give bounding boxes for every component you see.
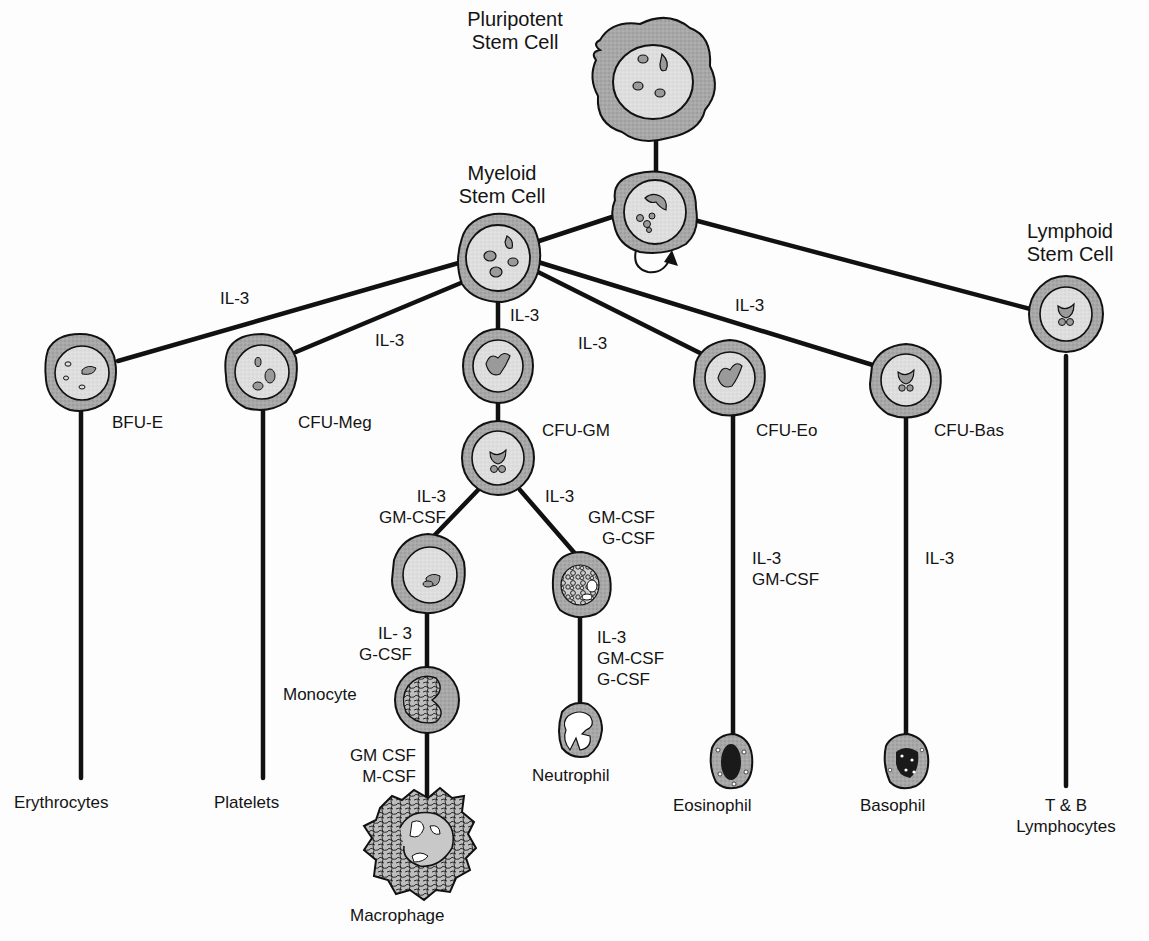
- neutrophil-cell: [559, 703, 602, 757]
- growth-factor-label: IL-3 GM-CSF: [752, 548, 819, 590]
- mature-cell-label-macrophage: Macrophage: [350, 905, 445, 926]
- myelocyte-cell: [553, 552, 611, 617]
- lymphoid-stem-cell-label: Lymphoid Stem Cell: [1000, 220, 1140, 266]
- growth-factor-label: IL-3 GM-CSF: [340, 486, 446, 528]
- cfu-gm-cell: [462, 421, 534, 495]
- mature-cell-label-monocyte: Monocyte: [283, 684, 357, 705]
- mature-cell-label-eosinophil: Eosinophil: [673, 795, 751, 816]
- hematopoiesis-diagram: [0, 0, 1149, 941]
- growth-factor-label: IL-3: [925, 548, 954, 569]
- lymphoid-stem-cell: [1029, 276, 1103, 352]
- myeloid-stem-cell: [458, 214, 540, 302]
- growth-factor-label: GM CSF M-CSF: [310, 745, 416, 787]
- mature-cell-label-basophil: Basophil: [860, 795, 925, 816]
- mature-cell-label-neutrophil: Neutrophil: [532, 765, 610, 786]
- pluripotent-stem-cell-label: Pluripotent Stem Cell: [440, 8, 590, 54]
- growth-factor-label: IL-3: [578, 333, 607, 354]
- growth-factor-label: IL-3 GM-CSF G-CSF: [597, 627, 664, 690]
- multipotent-cell: [612, 171, 697, 253]
- cfu-eo-cell: [694, 340, 765, 416]
- monoblast-cell: [392, 534, 465, 613]
- lineage-lines: [81, 135, 1066, 795]
- cfu-bas-cell: [870, 344, 941, 418]
- progenitor-label-cfu-meg: CFU-Meg: [298, 412, 372, 433]
- cfu-meg-cell: [225, 334, 297, 410]
- eosinophil-cell: [711, 734, 753, 788]
- basophil-cell: [885, 734, 929, 788]
- macrophage-cell: [364, 788, 476, 900]
- growth-factor-label: IL-3: [735, 295, 764, 316]
- monocyte-cell: [395, 667, 459, 733]
- progenitor-label-cfu-gm: CFU-GM: [542, 420, 610, 441]
- growth-factor-label: IL-3 GM-CSF G-CSF: [545, 486, 655, 549]
- progenitor-label-cfu-bas: CFU-Bas: [934, 420, 1004, 441]
- progenitor-label-cfu-eo: CFU-Eo: [756, 420, 817, 441]
- growth-factor-label: IL- 3 G-CSF: [320, 623, 412, 665]
- pluripotent-stem-cell: [592, 18, 715, 141]
- growth-factor-label: IL-3: [510, 305, 539, 326]
- mature-cell-label-platelets: Platelets: [214, 792, 279, 813]
- gm-precursor-cell: [463, 329, 533, 403]
- growth-factor-label: IL-3: [375, 330, 404, 351]
- growth-factor-label: IL-3: [220, 288, 249, 309]
- myeloid-stem-cell-label: Myeloid Stem Cell: [432, 162, 572, 208]
- progenitor-label-bfu-e: BFU-E: [112, 412, 163, 433]
- mature-cell-label-erythrocytes: Erythrocytes: [14, 792, 108, 813]
- mature-cell-label-lymphocytes: T & B Lymphocytes: [986, 795, 1146, 837]
- bfu-e-cell: [45, 334, 116, 411]
